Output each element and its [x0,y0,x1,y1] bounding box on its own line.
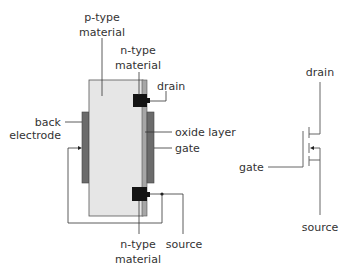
p-type-label-line1: p-type [84,11,120,24]
drain-terminal [147,98,150,103]
oxide-layer-label: oxide layer [175,126,236,139]
symbol-labels: drain gate source [239,66,338,234]
back-electrode-label-line1: back [35,116,62,129]
gate-label: gate [175,142,200,155]
symbol-gate-label: gate [239,161,264,174]
symbol-source-label: source [302,221,339,234]
drain-label: drain [157,80,185,93]
n-type-bottom-label-line2: material [115,253,161,266]
mosfet-diagram: p-type material n-type material drain ba… [0,0,354,277]
source-terminal [147,192,150,197]
n-type-top-label-line2: material [115,59,161,72]
back-electrode-label-line2: electrode [9,129,61,142]
drain-n-region [133,94,147,107]
channel-arrow-icon [310,146,314,150]
source-junction-dot [160,192,163,195]
back-electrode-arrow-icon [78,146,82,150]
back-electrode [82,112,89,183]
n-type-bottom-label-line1: n-type [120,238,156,251]
device-cross-section [82,80,154,216]
gate-electrode [147,112,154,183]
symbol-drain-label: drain [306,66,334,79]
source-label: source [166,238,203,251]
n-type-top-label-line1: n-type [120,44,156,57]
p-type-label-line2: material [79,26,125,39]
source-n-region [132,187,147,201]
